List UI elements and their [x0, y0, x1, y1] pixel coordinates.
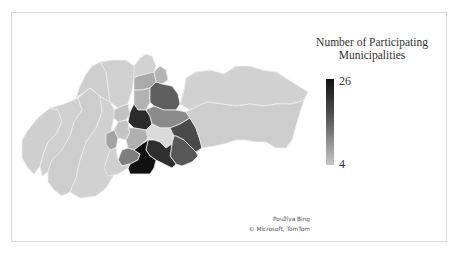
district-east-south[interactable] — [186, 100, 304, 148]
legend-gradient-bar — [326, 79, 334, 165]
legend-title: Number of Participating Municipalities — [306, 36, 438, 62]
district-east-north[interactable] — [180, 66, 308, 110]
district-north-mid-left-2[interactable] — [134, 88, 150, 110]
legend-title-line1: Number of Participating — [306, 36, 438, 49]
legend-title-line2: Municipalities — [306, 49, 438, 62]
copyright-attribution: © Microsoft, TomTom — [249, 226, 310, 232]
bing-attribution: Používa Bing — [273, 216, 310, 222]
legend-max-label: 26 — [339, 74, 351, 89]
legend-min-label: 4 — [339, 157, 345, 172]
